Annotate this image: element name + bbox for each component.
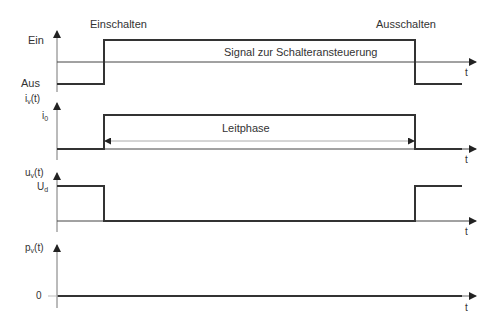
time-axis-label: t <box>465 68 468 78</box>
panel-voltage <box>57 173 476 232</box>
einschalten-label: Einschalten <box>90 19 147 30</box>
signal-label: Signal zur Schalteransteuerung <box>224 47 377 58</box>
voltage-waveform <box>57 186 462 221</box>
time-axis-label: t <box>465 227 468 237</box>
level-aus: Aus <box>21 78 40 89</box>
time-axis-label: t <box>465 155 468 165</box>
time-axis-label: t <box>465 303 468 313</box>
ausschalten-label: Ausschalten <box>376 19 436 30</box>
power-ylabel: pv(t) <box>25 243 44 254</box>
panel-power <box>48 245 476 308</box>
current-ylabel: iv(t) <box>25 94 40 105</box>
voltage-ylabel: uv(t) <box>25 168 44 179</box>
power-level-zero: 0 <box>36 291 42 301</box>
level-ein: Ein <box>28 35 44 46</box>
panel-control-signal <box>57 31 476 92</box>
voltage-level-ud: Ud <box>37 182 48 193</box>
current-level-i0: i0 <box>42 111 48 122</box>
leitphase-label: Leitphase <box>222 123 270 134</box>
